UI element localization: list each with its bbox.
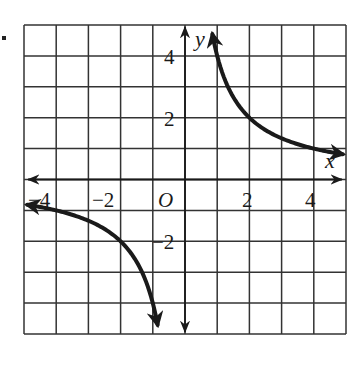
axes (28, 27, 342, 332)
y-tick-label-4: 4 (164, 45, 175, 69)
y-axis-label: y (193, 26, 205, 51)
hyperbola-branch-quadrant-3 (27, 205, 157, 325)
hyperbola-branch-quadrant-1 (212, 34, 342, 154)
x-axis-label: x (324, 148, 335, 173)
origin-label: O (158, 188, 173, 212)
hyperbola-graph: −4 −2 O 2 4 4 2 −2 y x (0, 0, 351, 384)
x-tick-label-4: 4 (305, 188, 316, 212)
stray-dot (2, 36, 6, 40)
x-tick-label-2: 2 (242, 188, 253, 212)
x-tick-label-neg2: −2 (92, 188, 114, 212)
x-tick-label-neg4: −4 (28, 188, 51, 212)
y-tick-label-2: 2 (164, 107, 175, 131)
y-tick-label-neg2: −2 (152, 230, 174, 254)
